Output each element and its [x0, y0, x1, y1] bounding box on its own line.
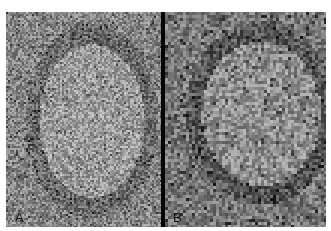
panel-b-label: B — [173, 211, 182, 224]
micrograph-figure: A B — [6, 12, 326, 227]
panel-b-image — [165, 12, 326, 227]
panel-a-label: A — [15, 211, 24, 224]
panel-a-image — [6, 12, 161, 227]
panel-a-micrograph: A — [6, 12, 161, 227]
panel-b-micrograph: B — [165, 12, 326, 227]
